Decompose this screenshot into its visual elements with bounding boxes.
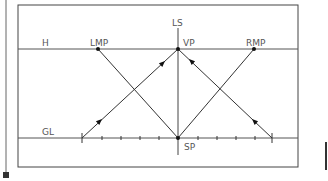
picture-frame [18,5,298,167]
vp-label: VP [183,38,195,48]
sp-point [176,136,180,140]
lmp-label: LMP [90,38,109,48]
key-points [96,47,256,140]
perspective-diagram: H LMP LS VP RMP GL SP [0,0,328,181]
ground-line-label: GL [42,127,54,137]
ls-label: LS [172,18,183,28]
horizon-label: H [42,38,49,48]
sp-label: SP [184,142,196,152]
left-margin-marker [3,172,9,178]
rmp-label: RMP [246,38,266,48]
vp-point [176,47,180,51]
lmp-to-sp-line [98,49,178,138]
sp-to-rmp-line [178,49,254,138]
arrowheads [96,57,258,125]
